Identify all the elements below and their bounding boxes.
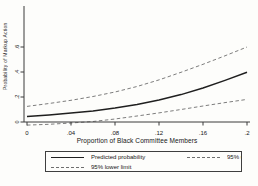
- y-tick-label: .4: [14, 70, 20, 75]
- upper-ci-line: [27, 47, 247, 106]
- x-tick-label: .08: [111, 130, 120, 136]
- legend-dashed-line-sample-lower: [51, 167, 84, 168]
- x-tick-label: .16: [199, 130, 208, 136]
- legend-label-predicted: Predicted probability: [91, 154, 187, 160]
- y-tick-label: 0: [14, 120, 20, 123]
- x-tick-label: .04: [67, 130, 76, 136]
- legend-label-upper: 95% upper limit: [227, 154, 241, 160]
- predicted-probability-line: [27, 72, 247, 116]
- y-tick-label: .6: [14, 45, 20, 50]
- legend-label-lower: 95% lower limit: [91, 164, 187, 170]
- x-tick-label: .12: [155, 130, 164, 136]
- legend-box: Predicted probability 95% upper limit 95…: [45, 151, 242, 172]
- y-tick-label: .2: [14, 95, 20, 100]
- lower-ci-line: [27, 99, 247, 125]
- legend-solid-line-sample: [51, 157, 84, 158]
- figure-canvas: Probability of Markup Action 0.2.4.60.04…: [0, 0, 258, 186]
- x-axis-title: Proportion of Black Committee Members: [24, 137, 250, 144]
- x-tick-label: 0: [25, 130, 29, 136]
- x-tick-label: .2: [244, 130, 250, 136]
- legend-dashed-line-sample-upper: [187, 157, 220, 158]
